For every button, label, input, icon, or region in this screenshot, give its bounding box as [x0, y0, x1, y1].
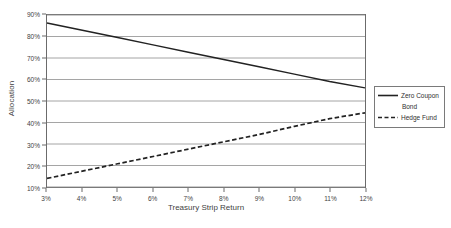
x-tick-mark — [152, 188, 153, 192]
y-tick-label: 60% — [27, 76, 40, 83]
y-tick-label: 30% — [27, 141, 40, 148]
x-tick-mark — [188, 188, 189, 192]
y-tick-label: 80% — [27, 32, 40, 39]
x-tick-label: 12% — [359, 195, 372, 202]
series-line-hedge-fund — [47, 113, 365, 179]
x-tick-label: 5% — [112, 195, 121, 202]
legend-label: Hedge Fund — [401, 113, 437, 122]
y-tick-label: 50% — [27, 98, 40, 105]
x-tick-label: 11% — [324, 195, 337, 202]
x-tick-label: 10% — [288, 195, 301, 202]
y-tick-label: 90% — [27, 11, 40, 18]
legend-label-continuation: Bond — [378, 101, 441, 112]
x-tick-mark — [117, 188, 118, 192]
x-tick-mark — [46, 188, 47, 192]
x-axis-ticks: 3%4%5%6%7%8%9%10%11%12% — [46, 188, 366, 204]
series-lines — [47, 15, 365, 187]
dashed-line-icon — [378, 114, 398, 121]
y-tick-label: 20% — [27, 163, 40, 170]
x-tick-label: 9% — [255, 195, 264, 202]
solid-line-icon — [378, 92, 398, 99]
x-tick-label: 7% — [184, 195, 193, 202]
chart-legend[interactable]: Zero CouponBondHedge Fund — [374, 86, 445, 128]
x-tick-mark — [223, 188, 224, 192]
chart-container: Allocation 10%20%30%40%50%60%70%80%90% 3… — [0, 0, 451, 228]
y-tick-label: 10% — [27, 185, 40, 192]
x-tick-mark — [330, 188, 331, 192]
x-axis-title: Treasury Strip Return — [46, 203, 366, 212]
x-tick-mark — [294, 188, 295, 192]
legend-item[interactable]: Zero Coupon — [378, 91, 441, 100]
x-tick-mark — [81, 188, 82, 192]
legend-item[interactable]: Hedge Fund — [378, 113, 441, 122]
y-tick-label: 70% — [27, 54, 40, 61]
x-tick-mark — [259, 188, 260, 192]
series-line-zero-coupon-bond — [47, 23, 365, 88]
plot-area — [46, 14, 366, 188]
x-tick-label: 8% — [219, 195, 228, 202]
x-tick-mark — [366, 188, 367, 192]
x-tick-label: 3% — [41, 195, 50, 202]
legend-label: Zero Coupon — [401, 91, 439, 100]
x-tick-label: 6% — [148, 195, 157, 202]
y-axis-ticks: 10%20%30%40%50%60%70%80%90% — [0, 14, 46, 188]
x-tick-label: 4% — [77, 195, 86, 202]
y-tick-label: 40% — [27, 119, 40, 126]
